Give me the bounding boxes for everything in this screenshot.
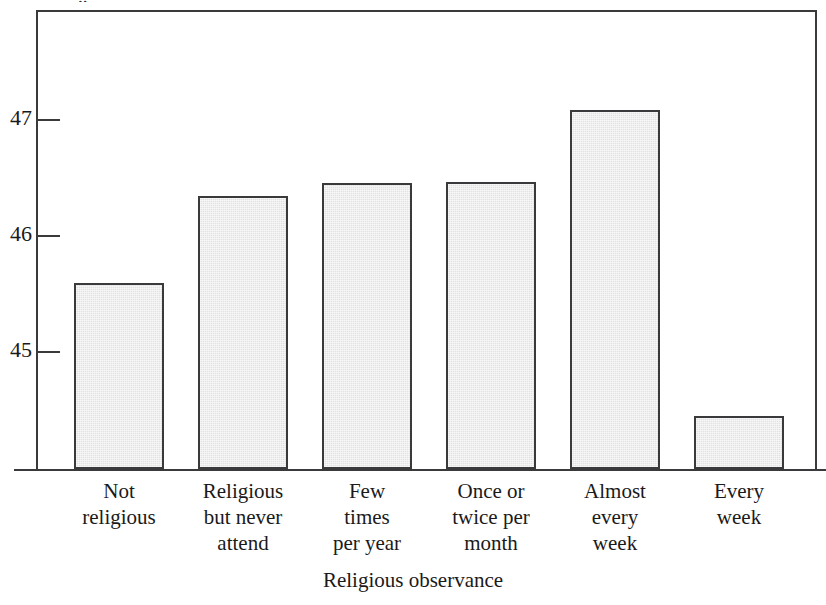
bar[interactable] bbox=[570, 110, 660, 469]
x-axis-category-label-line: week bbox=[540, 530, 690, 556]
y-axis-tick bbox=[38, 119, 60, 121]
clipped-title-fragment: .. bbox=[78, 0, 278, 2]
y-axis-tick-label: 47 bbox=[0, 107, 32, 129]
bar[interactable] bbox=[74, 283, 164, 469]
x-axis-category-label-line: week bbox=[664, 504, 814, 530]
x-axis-category-label-line: Every bbox=[664, 478, 814, 504]
bar[interactable] bbox=[198, 196, 288, 469]
y-axis-tick-label: 45 bbox=[0, 339, 32, 361]
y-axis-tick bbox=[38, 235, 60, 237]
bar[interactable] bbox=[322, 183, 412, 469]
bar[interactable] bbox=[694, 416, 784, 469]
bar-chart-figure: .. 474645 NotreligiousReligiousbut never… bbox=[0, 0, 826, 605]
bar[interactable] bbox=[446, 182, 536, 469]
x-axis-baseline bbox=[14, 469, 826, 471]
y-axis-tick bbox=[38, 351, 60, 353]
x-axis-title: Religious observance bbox=[0, 567, 826, 593]
y-axis-tick-label: 46 bbox=[0, 223, 32, 245]
x-axis-category-label: Everyweek bbox=[664, 478, 814, 530]
